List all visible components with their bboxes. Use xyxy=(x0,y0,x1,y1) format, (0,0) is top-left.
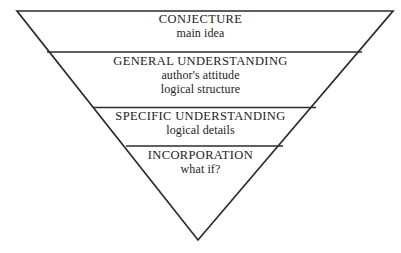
diagram-root: CONJECTURE main idea GENERAL UNDERSTANDI… xyxy=(0,0,401,253)
inverted-triangle-figure xyxy=(0,0,401,253)
triangle-outline xyxy=(17,11,393,240)
